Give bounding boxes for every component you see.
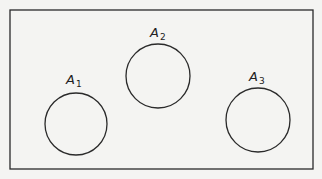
- set-a3-label: A3: [248, 69, 265, 86]
- set-a1-label: A1: [65, 72, 82, 89]
- set-a2-circle: [126, 44, 190, 108]
- set-a1-circle: [45, 93, 107, 155]
- set-a2-label: A2: [149, 25, 166, 42]
- venn-diagram: A1 A2 A3: [0, 0, 322, 179]
- set-a3-circle: [226, 88, 290, 152]
